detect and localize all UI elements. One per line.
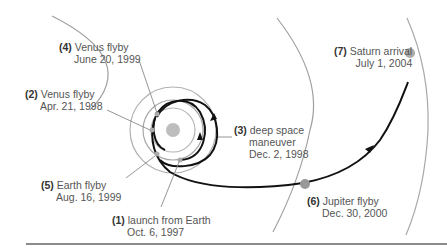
sun-icon [166,123,180,137]
jupiter-marker [300,179,310,189]
event-5-date: Aug. 16, 1999 [41,191,121,203]
event-2-num: (2) [25,88,38,100]
label-event-5: (5) Earth flyby Aug. 16, 1999 [41,179,121,203]
label-event-6: (6) Jupiter flyby Dec. 30, 2000 [307,195,387,219]
leader-1 [161,162,179,207]
event-4-name: Venus flyby [75,41,129,53]
event-1-date: Oct. 6, 1997 [112,226,211,238]
event-6-date: Dec. 30, 2000 [307,207,387,219]
event-4-date: June 20, 1999 [59,53,141,65]
event-1-num: (1) [112,214,125,226]
earth-marker-1 [178,158,183,163]
leader-4 [139,60,157,113]
label-event-3: (3) deep space maneuver Dec. 2, 1998 [234,124,309,160]
event-3-date: Dec. 2, 1998 [234,148,309,160]
bottom-rule [26,243,447,245]
label-event-4: (4) Venus flyby June 20, 1999 [59,41,141,65]
event-7-date: July 1, 2004 [334,57,412,69]
event-2-name: Venus flyby [41,88,95,100]
event-7-name: Saturn arrival [350,45,412,57]
event-4-num: (4) [59,41,72,53]
event-6-num: (6) [307,195,320,207]
event-5-num: (5) [41,179,54,191]
label-event-2: (2) Venus flyby Apr. 21, 1998 [25,88,102,112]
event-7-num: (7) [334,45,347,57]
leader-2 [107,110,150,130]
event-1-name: launch from Earth [128,214,211,226]
label-event-7: (7) Saturn arrival July 1, 2004 [334,45,412,69]
earth-marker-5 [155,152,160,157]
event-3-name: deep space [250,124,304,136]
event-3-name2: maneuver [234,136,309,148]
event-2-date: Apr. 21, 1998 [25,100,102,112]
event-5-name: Earth flyby [57,179,107,191]
venus-marker-2 [150,128,155,133]
label-event-1: (1) launch from Earth Oct. 6, 1997 [112,214,211,238]
event-3-num: (3) [234,124,247,136]
event-6-name: Jupiter flyby [323,195,379,207]
